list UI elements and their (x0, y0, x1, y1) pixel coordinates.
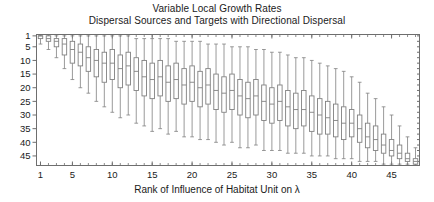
box-plot-item (222, 44, 226, 145)
box-iqr (389, 140, 393, 156)
box-plot-item (174, 41, 178, 131)
box-iqr (405, 153, 409, 161)
box-iqr (238, 80, 242, 115)
box-iqr (397, 145, 401, 159)
box-iqr (310, 96, 314, 131)
box-iqr (110, 50, 114, 80)
box-plot-item (150, 39, 154, 132)
figure: Variable Local Growth Rates Dispersal So… (0, 0, 434, 202)
box-plot-item (326, 66, 330, 156)
box-iqr (302, 90, 306, 125)
box-iqr (102, 52, 106, 82)
x-tick-label: 5 (70, 169, 75, 180)
box-plot-item (166, 39, 170, 135)
x-tick-label: 20 (187, 169, 198, 180)
y-tick-label: 20 (20, 82, 31, 93)
box-plot-item (381, 107, 385, 164)
box-iqr (365, 123, 369, 148)
box-plot-item (158, 39, 162, 129)
box-plot-item (389, 115, 393, 164)
box-plot-item (318, 63, 322, 156)
y-tick-label: 35 (20, 123, 31, 134)
box-plot-item (86, 36, 90, 93)
box-plot-item (230, 47, 234, 143)
box-plot-item (142, 39, 146, 126)
box-iqr (78, 44, 82, 66)
box-plot-item (262, 50, 266, 151)
box-iqr (86, 47, 90, 72)
box-iqr (54, 39, 58, 47)
box-plot-item (110, 36, 114, 112)
box-iqr (294, 93, 298, 128)
y-tick-label: 1 (25, 30, 30, 41)
box-iqr (198, 71, 202, 106)
box-plot-item (214, 44, 218, 142)
box-plot-item (238, 47, 242, 148)
box-plot-item (246, 47, 250, 148)
box-iqr (134, 58, 138, 91)
x-tick-label: 35 (306, 169, 317, 180)
box-iqr (150, 63, 154, 98)
box-plot: 151015202530354045151015202530354045 (0, 0, 434, 202)
box-plot-item (341, 71, 345, 158)
box-plot-item (126, 36, 130, 115)
y-tick-label: 40 (20, 137, 31, 148)
x-tick-label: 10 (107, 169, 118, 180)
box-iqr (286, 90, 290, 125)
box-plot-item (62, 36, 66, 69)
box-series (38, 36, 417, 164)
box-iqr (373, 126, 377, 151)
x-tick-label: 45 (386, 169, 397, 180)
box-plot-item (54, 36, 58, 58)
box-plot-item (270, 52, 274, 150)
box-iqr (94, 50, 98, 77)
box-plot-item (206, 44, 210, 140)
box-plot-item (134, 39, 138, 124)
box-iqr (254, 80, 258, 115)
box-iqr (190, 66, 194, 101)
box-plot-item (373, 99, 377, 162)
box-iqr (278, 85, 282, 120)
box-iqr (246, 82, 250, 117)
y-tick-label: 45 (20, 150, 31, 161)
box-iqr (318, 99, 322, 134)
box-iqr (62, 39, 66, 55)
box-iqr (174, 63, 178, 98)
box-plot-item (405, 137, 409, 164)
y-tick-label: 25 (20, 96, 31, 107)
box-iqr (222, 77, 226, 112)
box-plot-item (254, 50, 258, 146)
box-iqr (118, 55, 122, 88)
box-iqr (126, 52, 130, 85)
box-plot-item (365, 93, 369, 161)
x-tick-label: 40 (346, 169, 357, 180)
x-axis-label: Rank of Influence of Habitat Unit on λ (0, 184, 434, 195)
box-plot-item (70, 36, 74, 80)
y-tick-label: 10 (20, 55, 31, 66)
y-tick-label: 30 (20, 109, 31, 120)
box-plot-item (94, 36, 98, 102)
box-iqr (158, 60, 162, 95)
box-plot-item (286, 55, 290, 153)
box-iqr (206, 69, 210, 104)
box-iqr (214, 74, 218, 109)
box-plot-item (78, 36, 82, 88)
box-plot-item (333, 69, 337, 159)
box-plot-item (198, 41, 202, 139)
box-plot-item (38, 36, 42, 44)
box-plot-item (46, 36, 50, 50)
box-plot-item (349, 77, 353, 159)
box-plot-item (310, 60, 314, 156)
box-iqr (262, 85, 266, 120)
box-plot-item (357, 82, 361, 161)
box-iqr (381, 134, 385, 153)
box-plot-item (118, 36, 122, 118)
box-iqr (166, 66, 170, 101)
x-tick-label: 30 (267, 169, 278, 180)
box-iqr (270, 88, 274, 123)
box-iqr (142, 60, 146, 95)
x-tick-label: 25 (227, 169, 238, 180)
box-plot-item (278, 52, 282, 150)
y-tick-label: 15 (20, 68, 31, 79)
x-tick-label: 15 (147, 169, 158, 180)
